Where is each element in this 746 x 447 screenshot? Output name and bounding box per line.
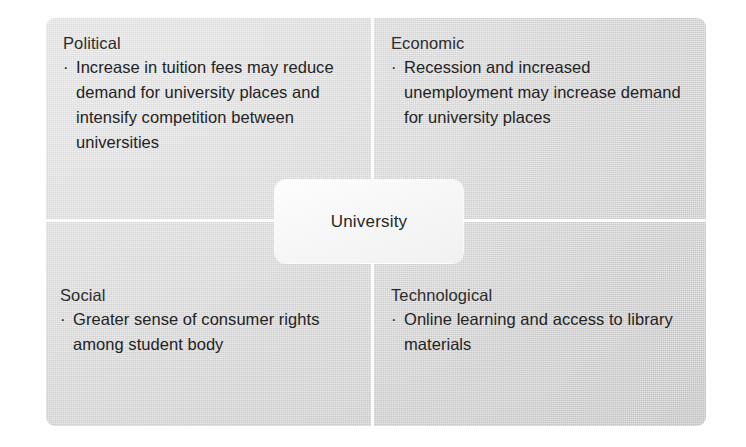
bullet-point-icon: · [63,55,69,80]
center-node-label: University [331,211,408,233]
bullet-list-economic: · Recession and increased unemployment m… [391,55,692,130]
quadrant-heading-economic: Economic [391,32,692,54]
bullet-point-icon: · [60,307,66,332]
quadrant-heading-technological: Technological [391,284,692,306]
list-item: · Recession and increased unemployment m… [391,55,692,130]
list-item: · Increase in tuition fees may reduce de… [63,55,355,155]
bullet-text: Online learning and access to library ma… [404,310,673,353]
bullet-list-technological: · Online learning and access to library … [391,307,692,357]
quadrant-heading-political: Political [63,32,355,54]
list-item: · Greater sense of consumer rights among… [60,307,361,357]
bullet-text: Recession and increased unemployment may… [404,58,681,126]
bullet-point-icon: · [391,307,397,332]
bullet-text: Greater sense of consumer rights among s… [73,310,319,353]
center-node: University [275,180,463,263]
pest-analysis-figure: Political · Increase in tuition fees may… [0,0,746,447]
bullet-list-political: · Increase in tuition fees may reduce de… [63,55,355,155]
list-item: · Online learning and access to library … [391,307,692,357]
bullet-point-icon: · [391,55,397,80]
bullet-text: Increase in tuition fees may reduce dema… [76,58,334,151]
quadrant-heading-social: Social [60,284,361,306]
bullet-list-social: · Greater sense of consumer rights among… [60,307,361,357]
